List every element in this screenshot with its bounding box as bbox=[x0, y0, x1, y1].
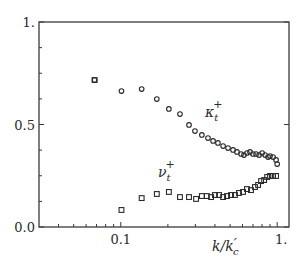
x-axis-ticks: 0.11. bbox=[59, 222, 288, 247]
circle-marker bbox=[155, 97, 160, 102]
x-axis-label: k/k′c bbox=[212, 236, 239, 257]
kappa-series-label: κt+ bbox=[204, 98, 222, 123]
square-marker bbox=[166, 190, 171, 195]
circle-marker bbox=[119, 89, 124, 94]
square-marker bbox=[139, 196, 144, 201]
y-tick-label: 0.0 bbox=[14, 220, 35, 235]
square-marker bbox=[271, 174, 276, 179]
circle-marker bbox=[216, 141, 221, 146]
y-tick-label: 1. bbox=[23, 15, 35, 30]
square-marker bbox=[199, 194, 204, 199]
kappa-series-markers bbox=[92, 78, 279, 167]
square-marker bbox=[274, 174, 279, 179]
circle-marker bbox=[211, 139, 216, 144]
y-axis-ticks: 0.00.51. bbox=[14, 15, 289, 235]
y-tick-label: 0.5 bbox=[14, 118, 35, 133]
square-marker bbox=[119, 208, 124, 213]
square-marker bbox=[154, 192, 159, 197]
circle-marker bbox=[187, 123, 192, 128]
chart: 0.00.51. 0.11. κt+ νt+ k/k′c bbox=[0, 0, 306, 261]
circle-marker bbox=[193, 129, 198, 134]
circle-marker bbox=[254, 152, 259, 157]
x-tick-label: 0.1 bbox=[110, 232, 131, 247]
plot-frame bbox=[39, 22, 289, 227]
square-marker bbox=[178, 195, 183, 200]
circle-marker bbox=[226, 146, 231, 151]
square-marker bbox=[187, 195, 192, 200]
nu-series-label: νt+ bbox=[158, 158, 175, 183]
nu-series-markers bbox=[92, 78, 278, 213]
circle-marker bbox=[206, 136, 211, 141]
circle-marker bbox=[239, 152, 244, 157]
circle-marker bbox=[139, 87, 144, 92]
square-marker bbox=[194, 197, 199, 202]
x-tick-label: 1. bbox=[275, 232, 287, 247]
circle-marker bbox=[178, 112, 183, 117]
circle-marker bbox=[92, 78, 97, 83]
circle-marker bbox=[200, 133, 205, 138]
circle-marker bbox=[221, 144, 226, 149]
circle-marker bbox=[167, 107, 172, 112]
